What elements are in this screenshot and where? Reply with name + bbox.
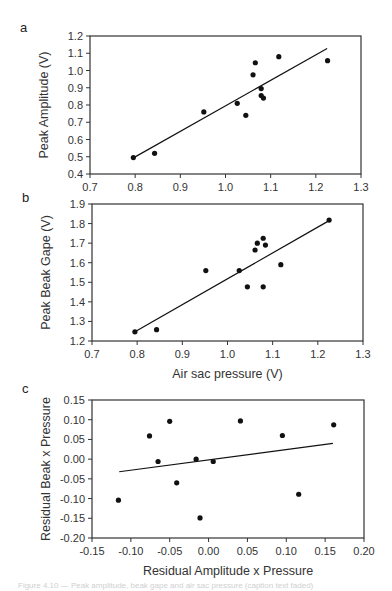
data-point	[237, 268, 242, 273]
x-tick-label: 1.3	[353, 181, 368, 193]
y-tick-label: 0.6	[68, 134, 83, 146]
data-point	[276, 54, 281, 59]
x-tick-label: 0.20	[353, 545, 374, 557]
data-point	[253, 60, 258, 65]
x-tick-label: -0.15	[79, 545, 104, 557]
x-tick-label: 1.3	[355, 348, 370, 360]
data-point	[255, 241, 260, 246]
plot-frame	[92, 400, 364, 538]
y-tick-label: -0.15	[60, 512, 85, 524]
data-point	[235, 101, 240, 106]
x-axis-label: Air sac pressure (V)	[172, 367, 282, 381]
x-tick-label: 1.1	[263, 181, 278, 193]
data-point	[197, 515, 202, 520]
x-tick-label: -0.05	[157, 545, 182, 557]
x-tick-label: 1.2	[310, 348, 325, 360]
data-point	[174, 480, 179, 485]
y-tick-label: 1.0	[68, 65, 83, 77]
data-point	[131, 155, 136, 160]
x-tick-label: 1.1	[265, 348, 280, 360]
data-point	[261, 284, 266, 289]
data-point	[155, 459, 160, 464]
y-axis-label: Peak Amplitude (V)	[37, 52, 51, 159]
x-axis-label: Residual Amplitude x Pressure	[143, 564, 313, 578]
y-tick-label: 1.3	[70, 315, 85, 327]
scatter-chart-b: 0.70.80.91.01.11.21.31.21.31.41.51.61.71…	[39, 198, 371, 381]
data-point	[250, 72, 255, 77]
data-point	[154, 327, 159, 332]
regression-line	[136, 221, 329, 332]
x-tick-label: 0.10	[276, 545, 297, 557]
x-tick-label: 0.7	[84, 348, 99, 360]
y-tick-label: 1.2	[68, 30, 83, 42]
data-point	[211, 459, 216, 464]
data-point	[252, 247, 257, 252]
y-tick-label: 1.6	[70, 257, 85, 269]
x-tick-label: 0.9	[173, 181, 188, 193]
data-point	[238, 418, 243, 423]
data-point	[278, 262, 283, 267]
x-tick-label: 1.0	[220, 348, 235, 360]
scatter-chart-c: -0.15-0.10-0.050.000.050.100.150.20-0.20…	[39, 394, 375, 578]
regression-line	[119, 443, 333, 471]
x-tick-label: 0.15	[314, 545, 335, 557]
x-tick-label: 0.00	[198, 545, 219, 557]
data-point	[243, 113, 248, 118]
data-point	[194, 457, 199, 462]
data-point	[325, 58, 330, 63]
y-tick-label: 1.4	[70, 296, 85, 308]
y-tick-label: 0.8	[68, 99, 83, 111]
data-point	[167, 419, 172, 424]
data-point	[132, 329, 137, 334]
data-point	[331, 422, 336, 427]
plot-frame	[90, 36, 361, 174]
data-point	[245, 284, 250, 289]
y-tick-label: 0.9	[68, 82, 83, 94]
y-tick-label: 1.5	[70, 276, 85, 288]
data-point	[327, 217, 332, 222]
y-tick-label: 0.5	[68, 151, 83, 163]
figure-caption: Figure 4.10 — Peak amplitude, beak gape …	[18, 581, 388, 590]
y-tick-label: 0.4	[68, 168, 83, 180]
y-axis-label: Peak Beak Gape (V)	[39, 215, 53, 330]
y-axis-label: Residual Beak x Pressure	[39, 397, 53, 541]
y-tick-label: 0.7	[68, 116, 83, 128]
y-tick-label: 1.1	[68, 47, 83, 59]
data-point	[296, 492, 301, 497]
y-tick-label: 1.2	[70, 335, 85, 347]
data-point	[152, 151, 157, 156]
x-tick-label: 0.7	[82, 181, 97, 193]
y-tick-label: 0.10	[64, 414, 85, 426]
data-point	[263, 243, 268, 248]
x-tick-label: 0.8	[130, 348, 145, 360]
data-point	[280, 433, 285, 438]
scatter-chart-a: 0.70.80.91.01.11.21.30.40.50.60.70.80.91…	[37, 30, 369, 193]
figure: a b c 0.70.80.91.01.11.21.30.40.50.60.70…	[0, 0, 392, 591]
x-tick-label: 0.8	[128, 181, 143, 193]
y-tick-label: 1.7	[70, 237, 85, 249]
data-point	[259, 86, 264, 91]
y-tick-label: 0.15	[64, 394, 85, 406]
x-tick-label: 1.2	[308, 181, 323, 193]
data-point	[147, 433, 152, 438]
data-point	[261, 96, 266, 101]
data-point	[201, 109, 206, 114]
y-tick-label: 1.9	[70, 198, 85, 210]
data-point	[203, 268, 208, 273]
y-tick-label: -0.20	[60, 532, 85, 544]
y-tick-label: -0.05	[60, 473, 85, 485]
regression-line	[134, 48, 327, 157]
y-tick-label: 1.8	[70, 218, 85, 230]
x-tick-label: -0.10	[118, 545, 143, 557]
chart-canvas: 0.70.80.91.01.11.21.30.40.50.60.70.80.91…	[0, 0, 392, 591]
y-tick-label: 0.05	[64, 433, 85, 445]
data-point	[116, 498, 121, 503]
x-tick-label: 0.05	[237, 545, 258, 557]
y-tick-label: -0.10	[60, 493, 85, 505]
data-point	[261, 236, 266, 241]
x-tick-label: 0.9	[175, 348, 190, 360]
y-tick-label: 0.00	[64, 453, 85, 465]
x-tick-label: 1.0	[218, 181, 233, 193]
